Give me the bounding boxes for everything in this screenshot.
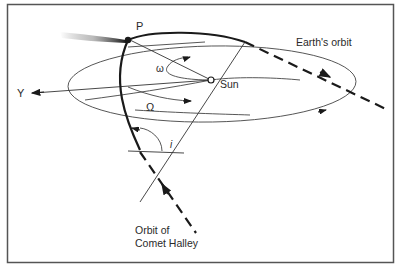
comet-orbit-label-line2: Comet Halley	[135, 237, 199, 249]
inclination-arc	[140, 128, 162, 151]
inclination-label: i	[170, 139, 173, 150]
comet-outbound-arrow-icon	[320, 72, 330, 77]
reference-plane-line	[128, 151, 184, 153]
comet-inbound-arrow-icon	[162, 184, 168, 194]
omega-small-label: ω	[156, 63, 164, 74]
sun-label: Sun	[220, 78, 239, 90]
diagram-stage: Y P Sun Earth's orbit ω Ω i Orbit of Com…	[0, 0, 397, 267]
earth-orbit-arrow-icon	[318, 110, 326, 112]
inclination-arrow-icon	[132, 128, 140, 130]
sun-icon	[208, 77, 214, 83]
comet-tail	[60, 32, 126, 43]
earth-orbit-ellipse	[67, 43, 356, 124]
capital-omega-label: Ω	[146, 101, 154, 113]
comet-nucleus	[125, 37, 131, 43]
comet-orbit-dashed-inbound	[140, 152, 196, 233]
comet-orbit-label-line1: Orbit of	[135, 224, 170, 236]
y-axis-label: Y	[17, 87, 25, 99]
comet-orbit-dashed-outbound	[245, 42, 388, 110]
orbit-diagram: Y P Sun Earth's orbit ω Ω i Orbit of Com…	[0, 0, 397, 267]
y-axis-arrow-icon	[32, 92, 44, 93]
y-axis-line	[34, 80, 211, 93]
earth-orbit-label: Earth's orbit	[296, 36, 352, 48]
perihelion-label: P	[136, 20, 143, 32]
